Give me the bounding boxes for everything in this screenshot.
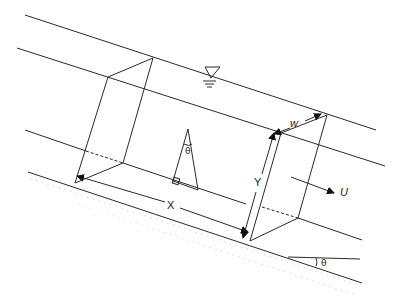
velocity-label: U (340, 186, 348, 198)
y-label: Y (254, 176, 262, 188)
channel-bed (23, 172, 362, 297)
channel-side-line-left (25, 130, 86, 151)
y-dimension-arrow-up (262, 133, 274, 174)
channel-diagram: θ θ w Y X U (0, 0, 398, 307)
channel-side-dashed-front (262, 207, 298, 218)
channel-side-dashed-back (86, 151, 123, 163)
free-surface-line (17, 48, 385, 166)
w-label: w (290, 117, 299, 129)
channel-side-line-mid (123, 163, 246, 204)
water-surface-symbol-icon (203, 67, 220, 87)
channel-side-line-right (298, 218, 362, 240)
slope-angle-label: θ (321, 258, 327, 268)
inner-angle-label: θ (185, 146, 191, 156)
velocity-arrow (291, 177, 334, 193)
slope-angle-arc (316, 258, 317, 266)
free-surface-upper-line (25, 15, 376, 130)
x-label: X (167, 199, 175, 211)
